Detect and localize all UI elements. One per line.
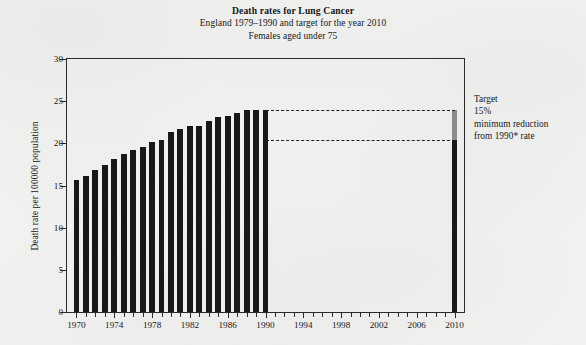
y-axis-title: Death rate per 100000 population	[28, 58, 42, 313]
bar-1986	[225, 116, 231, 312]
x-axis-major-tick	[114, 312, 115, 318]
x-axis-major-tick	[341, 312, 342, 318]
x-axis-tick-label: 1982	[181, 320, 199, 330]
bar-1972	[92, 170, 98, 312]
x-axis-minor-tick	[426, 312, 427, 317]
y-axis-tick-label: 25	[54, 96, 63, 106]
x-axis-minor-tick	[351, 312, 352, 317]
bar-1989	[253, 110, 259, 312]
x-axis-minor-tick	[143, 312, 144, 317]
x-axis-tick-label: 1978	[143, 320, 161, 330]
x-axis-minor-tick	[275, 312, 276, 317]
x-axis-minor-tick	[124, 312, 125, 317]
x-axis-minor-tick	[209, 312, 210, 317]
x-axis-minor-tick	[162, 312, 163, 317]
x-axis-minor-tick	[294, 312, 295, 317]
x-axis-major-tick	[379, 312, 380, 318]
x-axis-major-tick	[76, 312, 77, 318]
x-axis-major-tick	[152, 312, 153, 318]
target-annotation: Target 15% minimum reduction from 1990* …	[474, 93, 584, 143]
y-axis-tick-label: 10	[54, 223, 63, 233]
x-axis-minor-tick	[388, 312, 389, 317]
x-axis-minor-tick	[436, 312, 437, 317]
plot-frame: 0510152025301970197419781982198619901994…	[66, 58, 465, 313]
chart-subtitle-primary: England 1979–1990 and target for the yea…	[0, 17, 586, 30]
target-bar-reduction-segment	[452, 110, 458, 140]
y-axis-title-label: Death rate per 100000 population	[30, 121, 40, 250]
bar-1987	[234, 113, 240, 312]
bar-1971	[83, 176, 89, 312]
target-annotation-line-3: minimum reduction	[474, 118, 584, 130]
x-axis-major-tick	[303, 312, 304, 318]
x-axis-minor-tick	[398, 312, 399, 317]
y-axis-tick-label: 5	[58, 265, 63, 275]
bar-1980	[168, 132, 174, 312]
x-axis-minor-tick	[105, 312, 106, 317]
y-axis-tick-label: 20	[54, 138, 63, 148]
x-axis-minor-tick	[360, 312, 361, 317]
bar-1981	[177, 129, 183, 312]
x-axis-tick-label: 2010	[445, 320, 463, 330]
x-axis-minor-tick	[180, 312, 181, 317]
x-axis-tick-label: 1970	[67, 320, 85, 330]
x-axis-major-tick	[266, 312, 267, 318]
target-bar-remaining-segment	[452, 140, 458, 312]
bar-1984	[206, 121, 212, 312]
x-axis-minor-tick	[332, 312, 333, 317]
x-axis-minor-tick	[247, 312, 248, 317]
x-axis-minor-tick	[256, 312, 257, 317]
x-axis-minor-tick	[407, 312, 408, 317]
lung-cancer-death-rates-chart: Death rates for Lung Cancer England 1979…	[0, 0, 586, 345]
x-axis-major-tick	[190, 312, 191, 318]
x-axis-minor-tick	[284, 312, 285, 317]
x-axis-minor-tick	[369, 312, 370, 317]
y-axis-tick-label: 0	[58, 307, 63, 317]
chart-title: Death rates for Lung Cancer	[0, 5, 586, 17]
bar-1970	[74, 180, 80, 312]
bar-1979	[159, 140, 165, 312]
x-axis-tick-label: 1990	[256, 320, 274, 330]
title-block: Death rates for Lung Cancer England 1979…	[0, 5, 586, 43]
x-axis-minor-tick	[322, 312, 323, 317]
x-axis-major-tick	[417, 312, 418, 318]
bar-1974	[111, 159, 117, 312]
x-axis-tick-label: 1986	[219, 320, 237, 330]
x-axis-minor-tick	[133, 312, 134, 317]
target-annotation-line-2: 15%	[474, 105, 584, 117]
reference-line-24	[266, 110, 455, 111]
x-axis-minor-tick	[86, 312, 87, 317]
bar-1975	[121, 154, 127, 312]
bar-1977	[140, 147, 146, 312]
x-axis-minor-tick	[171, 312, 172, 317]
x-axis-minor-tick	[199, 312, 200, 317]
x-axis-tick-label: 1994	[294, 320, 312, 330]
bar-1988	[244, 110, 250, 312]
x-axis-tick-label: 1998	[332, 320, 350, 330]
x-axis-minor-tick	[445, 312, 446, 317]
target-annotation-line-1: Target	[474, 93, 584, 105]
x-axis-minor-tick	[237, 312, 238, 317]
x-axis-major-tick	[455, 312, 456, 318]
x-axis-tick-label: 1974	[105, 320, 123, 330]
x-axis-minor-tick	[95, 312, 96, 317]
reference-line-20.4	[266, 140, 455, 141]
plot-area: 0510152025301970197419781982198619901994…	[67, 59, 464, 312]
bar-1973	[102, 165, 108, 312]
y-axis-tick-label: 15	[54, 181, 63, 191]
y-axis-tick-label: 30	[54, 54, 63, 64]
bar-1978	[149, 142, 155, 312]
target-annotation-line-4: from 1990* rate	[474, 130, 584, 142]
x-axis-minor-tick	[313, 312, 314, 317]
x-axis-tick-label: 2006	[408, 320, 426, 330]
x-axis-minor-tick	[218, 312, 219, 317]
x-axis-major-tick	[228, 312, 229, 318]
bar-1976	[130, 150, 136, 312]
x-axis-tick-label: 2002	[370, 320, 388, 330]
bar-1983	[196, 126, 202, 312]
bar-1985	[215, 117, 221, 312]
chart-subtitle-secondary: Females aged under 75	[0, 30, 586, 43]
bar-1982	[187, 126, 193, 312]
